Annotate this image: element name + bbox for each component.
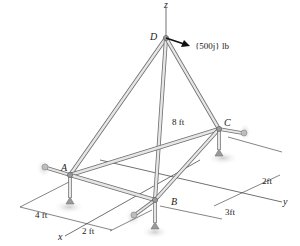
joint-B (152, 197, 157, 202)
joints (67, 35, 221, 202)
load-label: {500j} lb (195, 41, 229, 51)
joint-label-D: D (149, 31, 158, 42)
axis-label-x: x (57, 231, 63, 242)
y-axis (100, 160, 282, 202)
dim-height: 8 ft (172, 117, 185, 127)
member-AD (70, 38, 166, 175)
truss-members (70, 38, 219, 200)
joint-C (216, 126, 221, 131)
dim-4ft: 4 ft (35, 210, 48, 220)
axis-label-y: y (282, 196, 288, 207)
member-CD (166, 38, 219, 129)
dim-2ft-x: 2 ft (82, 226, 95, 236)
joint-label-B: B (171, 196, 177, 207)
joint-label-A: A (60, 162, 68, 173)
axis-label-z: z (163, 0, 168, 10)
dim-3ft: 3ft (225, 207, 235, 217)
dim-2ft-y: 2ft (262, 176, 272, 186)
joint-A (67, 172, 72, 177)
space-truss-diagram: D A B C z x y {500j} lb 8 ft 4 ft 2 ft 3… (0, 0, 300, 246)
member-BD (155, 38, 166, 200)
member-AB (70, 175, 155, 200)
joint-label-C: C (224, 117, 231, 128)
